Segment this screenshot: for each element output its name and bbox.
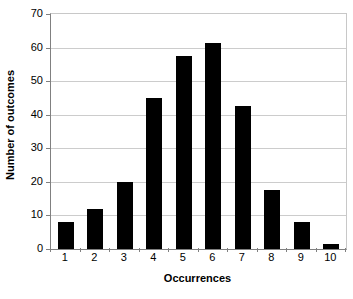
x-axis-tick-label: 2 xyxy=(91,252,97,263)
bar xyxy=(117,182,133,249)
x-axis-tick-label: 3 xyxy=(121,252,127,263)
x-axis-tick-mark xyxy=(50,248,51,252)
x-axis-tick-labels: 12345678910 xyxy=(50,252,345,268)
x-axis-tick-mark xyxy=(198,248,199,252)
bar xyxy=(87,209,103,249)
x-axis-tick-mark xyxy=(257,248,258,252)
x-axis-tick-label: 9 xyxy=(298,252,304,263)
y-axis-tick-labels: 010203040506070 xyxy=(20,0,46,299)
x-axis-title: Occurrences xyxy=(50,272,345,284)
y-axis-tick-label: 50 xyxy=(31,75,43,86)
x-axis-tick-mark xyxy=(227,248,228,252)
x-axis-tick-label: 7 xyxy=(239,252,245,263)
x-axis-tick-mark xyxy=(168,248,169,252)
bar xyxy=(323,244,339,249)
x-axis-tick-label: 6 xyxy=(209,252,215,263)
y-axis-tick-label: 0 xyxy=(37,243,43,254)
plot-area xyxy=(50,13,347,250)
bar xyxy=(235,106,251,249)
bar xyxy=(264,190,280,249)
x-axis-tick-label: 10 xyxy=(324,252,336,263)
y-axis-tick-mark xyxy=(46,115,50,116)
y-axis-tick-mark xyxy=(46,81,50,82)
bar xyxy=(205,43,221,249)
x-axis-tick-mark xyxy=(286,248,287,252)
bars-layer xyxy=(51,14,346,249)
bar-chart: Number of outcomes 010203040506070 12345… xyxy=(0,0,353,299)
y-axis-tick-label: 30 xyxy=(31,142,43,153)
bar xyxy=(176,56,192,249)
y-axis-tick-mark xyxy=(46,48,50,49)
bar xyxy=(58,222,74,249)
x-axis-tick-mark xyxy=(345,248,346,252)
x-axis-tick-mark xyxy=(316,248,317,252)
x-axis-tick-label: 1 xyxy=(62,252,68,263)
y-axis-tick-label: 10 xyxy=(31,209,43,220)
y-axis-tick-mark xyxy=(46,148,50,149)
x-axis-tick-mark xyxy=(80,248,81,252)
x-axis-tick-mark xyxy=(139,248,140,252)
y-axis-tick-label: 40 xyxy=(31,108,43,119)
y-axis-tick-mark xyxy=(46,14,50,15)
x-axis-tick-mark xyxy=(109,248,110,252)
y-axis-title-text: Number of outcomes xyxy=(4,70,16,180)
y-axis-tick-mark xyxy=(46,182,50,183)
y-axis-tick-label: 70 xyxy=(31,8,43,19)
x-axis-tick-label: 5 xyxy=(180,252,186,263)
y-axis-tick-label: 20 xyxy=(31,175,43,186)
x-axis-tick-label: 8 xyxy=(268,252,274,263)
y-axis-title: Number of outcomes xyxy=(0,0,20,250)
y-axis-tick-mark xyxy=(46,215,50,216)
bar xyxy=(294,222,310,249)
x-axis-tick-label: 4 xyxy=(150,252,156,263)
y-axis-tick-label: 60 xyxy=(31,41,43,52)
bar xyxy=(146,98,162,249)
